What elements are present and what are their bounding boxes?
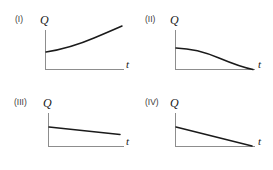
data-curve-iii (49, 127, 120, 135)
graph-panel-iii: (III) Q t (0, 85, 136, 170)
panel-label-ii: (II) (145, 14, 156, 24)
y-axis-label-q-iv: Q (170, 96, 179, 110)
x-axis-label-t-iii: t (126, 135, 130, 147)
panel-label-i: (I) (15, 14, 23, 24)
x-axis-label-t-i: t (126, 58, 130, 70)
y-axis-label-q-iii: Q (43, 96, 52, 110)
data-curve-i (46, 26, 122, 52)
x-axis-label-t-ii: t (258, 58, 262, 70)
y-axis-label-q-ii: Q (170, 13, 179, 27)
y-axis-label-q-i: Q (40, 13, 49, 27)
panel-label-iii: (III) (14, 97, 27, 107)
graph-panel-i: (I) Q t (0, 0, 136, 85)
four-panel-graph-figure: (I) Q t (II) Q t (III) Q t (0, 0, 273, 170)
data-curve-iv (176, 127, 252, 146)
graph-panel-ii: (II) Q t (137, 0, 273, 85)
data-curve-ii (176, 48, 253, 70)
graph-panel-iv: (IV) Q t (137, 85, 273, 170)
x-axis-label-t-iv: t (258, 135, 262, 147)
panel-label-iv: (IV) (145, 97, 159, 107)
